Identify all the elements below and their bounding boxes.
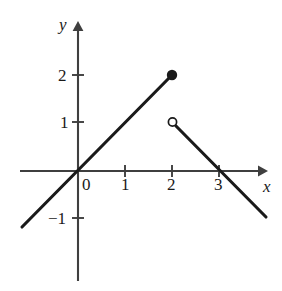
graph-figure: y x 0 1 2 3 2 1 −1 (0, 0, 282, 291)
x-axis-label: x (263, 178, 271, 195)
x-axis-arrowhead (258, 166, 268, 177)
x-axis (20, 166, 268, 177)
y-axis-arrowhead (73, 21, 84, 31)
segment-line-1 (22, 75, 172, 227)
x-tick-label-3: 3 (214, 176, 223, 193)
y-tick-label-neg1: −1 (48, 210, 66, 227)
open-endpoint-marker (168, 118, 176, 126)
closed-endpoint-marker (167, 70, 177, 80)
coordinate-plot (0, 0, 282, 291)
x-tick-label-1: 1 (121, 176, 130, 193)
y-axis-label: y (59, 16, 67, 33)
y-tick-label-2: 2 (58, 67, 67, 84)
y-axis (73, 21, 84, 281)
x-tick-label-2: 2 (167, 176, 176, 193)
y-tick-label-1: 1 (60, 114, 69, 131)
origin-label: 0 (82, 176, 91, 193)
